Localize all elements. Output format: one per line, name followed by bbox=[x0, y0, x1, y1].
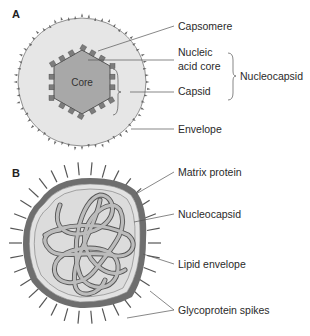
label-nucleic-1: Nucleic bbox=[178, 46, 212, 58]
label-capsomere: Capsomere bbox=[178, 20, 232, 32]
label-matrix-protein: Matrix protein bbox=[178, 166, 242, 178]
panel-b: B Matrix protein Nucleocapsid bbox=[9, 162, 270, 323]
nucleocapsid-brace bbox=[228, 53, 236, 100]
label-glycoprotein-spikes: Glycoprotein spikes bbox=[178, 304, 270, 316]
panel-b-label: B bbox=[12, 167, 20, 179]
leader-lipid bbox=[143, 254, 174, 264]
panel-a: A Core Capsomere Nucleic acid core Capsi… bbox=[12, 8, 303, 150]
label-nucleic-2: acid core bbox=[178, 60, 221, 72]
leader-spike-2 bbox=[127, 310, 174, 318]
panel-a-label: A bbox=[12, 8, 20, 20]
leader-matrix bbox=[136, 172, 174, 194]
core-label: Core bbox=[71, 77, 93, 88]
label-lipid-envelope: Lipid envelope bbox=[178, 258, 246, 270]
label-nucleocapsid-b: Nucleocapsid bbox=[178, 208, 241, 220]
leader-spike-1 bbox=[150, 291, 174, 310]
label-nucleocapsid-a: Nucleocapsid bbox=[240, 70, 303, 82]
virus-structure-diagram: A Core Capsomere Nucleic acid core Capsi… bbox=[0, 0, 310, 336]
label-envelope: Envelope bbox=[178, 123, 222, 135]
label-capsid: Capsid bbox=[178, 85, 211, 97]
